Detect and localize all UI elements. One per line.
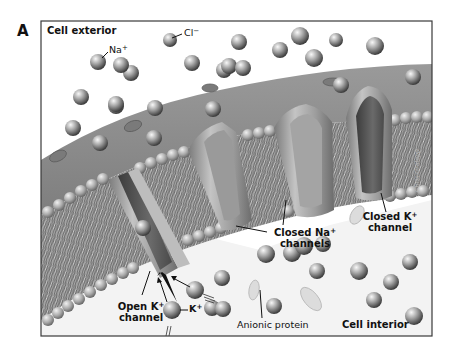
panel-letter: A — [17, 22, 29, 40]
closed-na-line1: Closed Na — [274, 227, 330, 238]
membrane-surface-ion — [92, 135, 108, 151]
interior-ion — [214, 270, 230, 286]
open-k-line1: Open K — [118, 301, 159, 312]
membrane-figure: A Cell exterior Na+ Cl− Closed Na+ chann… — [0, 0, 452, 352]
exterior-ion — [184, 55, 200, 71]
interior-ion — [135, 220, 151, 236]
label-cell-interior: Cell interior — [342, 320, 409, 331]
label-na-ion: Na+ — [109, 45, 128, 55]
membrane-surface-ion — [405, 69, 421, 85]
label-anionic-protein: Anionic protein — [237, 320, 309, 330]
membrane-surface-ion — [235, 60, 251, 76]
label-k-ion: K+ — [189, 304, 202, 314]
na-sup: + — [122, 44, 128, 52]
interior-ion — [266, 298, 282, 314]
open-k-line2: channel — [116, 313, 166, 324]
interior-ion — [350, 262, 368, 280]
membrane-surface-ion — [65, 120, 81, 136]
label-cell-exterior: Cell exterior — [47, 26, 116, 37]
interior-ion — [186, 281, 204, 299]
exterior-ion — [221, 58, 237, 74]
label-open-k-channel: Open K+ channel — [116, 302, 166, 323]
closed-na-line2: channels — [270, 239, 340, 250]
cl-base: Cl — [184, 27, 193, 38]
membrane-surface-ion — [108, 96, 124, 112]
closed-na-sup: + — [330, 227, 336, 235]
closed-k-line1: Closed K — [363, 211, 412, 222]
membrane-surface-ion — [147, 100, 163, 116]
interior-ion — [383, 274, 399, 290]
closed-k-sup: + — [411, 211, 417, 219]
exterior-ion — [73, 89, 89, 105]
exterior-ion — [366, 37, 384, 55]
exterior-ion — [272, 42, 288, 58]
artist-signature: Chris Gralapp — [413, 149, 420, 192]
membrane-surface-ion — [205, 101, 221, 117]
exterior-ion — [329, 33, 343, 47]
exterior-ion — [231, 34, 247, 50]
cl-sup: − — [193, 27, 199, 35]
closed-k-line2: channel — [362, 223, 418, 234]
exterior-ion — [113, 57, 129, 73]
interior-ion — [402, 254, 418, 270]
label-closed-k-channel: Closed K+ channel — [362, 212, 418, 233]
membrane-surface-ion — [333, 77, 349, 93]
label-closed-na-channels: Closed Na+ channels — [270, 228, 340, 249]
interior-ion — [309, 263, 325, 279]
interior-ion — [215, 301, 231, 317]
exterior-ion — [305, 49, 323, 67]
label-cl-ion: Cl− — [184, 28, 199, 38]
na-base: Na — [109, 44, 122, 55]
exterior-ion — [163, 33, 177, 47]
membrane-surface-ion — [146, 130, 162, 146]
open-k-sup: + — [158, 301, 164, 309]
k-sup: + — [196, 303, 202, 311]
interior-ion — [366, 292, 382, 308]
exterior-ion — [291, 27, 309, 45]
membrane-illustration — [0, 0, 452, 352]
